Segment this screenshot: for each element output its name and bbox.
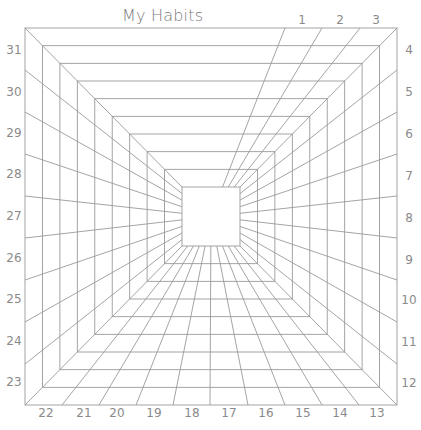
day-label-4: 4 — [405, 44, 413, 56]
spoke-left — [25, 226, 182, 280]
habit-tracker: My Habits 123456789101112131415161718192… — [0, 0, 421, 430]
day-label-9: 9 — [405, 254, 413, 266]
spoke-bottom — [62, 246, 188, 405]
spoke-bottom — [99, 246, 194, 405]
day-label-27: 27 — [6, 210, 21, 222]
day-label-7: 7 — [405, 170, 413, 182]
spoke-bottom — [173, 246, 205, 405]
corner-diagonal — [240, 28, 397, 187]
spoke-left — [25, 112, 182, 200]
tracker-grid — [0, 0, 421, 430]
day-label-3: 3 — [372, 14, 380, 26]
day-label-20: 20 — [109, 407, 124, 419]
day-label-10: 10 — [401, 294, 416, 306]
day-label-18: 18 — [184, 407, 199, 419]
spoke-left — [25, 233, 182, 322]
day-label-16: 16 — [258, 407, 273, 419]
day-label-22: 22 — [38, 407, 53, 419]
spoke-right — [240, 226, 397, 280]
spoke-right — [240, 70, 397, 194]
inner-square — [182, 187, 240, 246]
day-label-19: 19 — [146, 407, 161, 419]
day-label-21: 21 — [76, 407, 91, 419]
spoke-left — [25, 220, 182, 238]
day-label-24: 24 — [6, 335, 21, 347]
corner-diagonal — [240, 246, 397, 405]
day-label-5: 5 — [405, 86, 413, 98]
day-label-17: 17 — [221, 407, 236, 419]
day-label-13: 13 — [369, 407, 384, 419]
spoke-right — [240, 240, 397, 364]
day-label-12: 12 — [401, 377, 416, 389]
spoke-bottom — [234, 246, 359, 405]
corner-diagonal — [25, 246, 182, 405]
day-label-15: 15 — [295, 407, 310, 419]
corner-diagonal — [25, 28, 182, 187]
page-title: My Habits — [122, 6, 203, 25]
day-label-31: 31 — [6, 44, 21, 56]
day-label-14: 14 — [332, 407, 347, 419]
spoke-right — [240, 233, 397, 322]
spoke-right — [240, 220, 397, 238]
spoke-left — [25, 240, 182, 364]
day-label-1: 1 — [298, 14, 306, 26]
spoke-top — [234, 28, 360, 187]
day-label-30: 30 — [6, 86, 21, 98]
day-label-29: 29 — [6, 127, 21, 139]
day-label-28: 28 — [6, 168, 21, 180]
day-label-8: 8 — [405, 212, 413, 224]
day-label-23: 23 — [6, 376, 21, 388]
spoke-right — [240, 112, 397, 200]
day-label-26: 26 — [6, 252, 21, 264]
spoke-bottom — [136, 246, 199, 405]
day-label-25: 25 — [6, 293, 21, 305]
day-label-6: 6 — [405, 128, 413, 140]
spoke-left — [25, 70, 182, 194]
spoke-bottom — [210, 246, 211, 405]
day-label-11: 11 — [401, 336, 416, 348]
day-label-2: 2 — [336, 14, 344, 26]
